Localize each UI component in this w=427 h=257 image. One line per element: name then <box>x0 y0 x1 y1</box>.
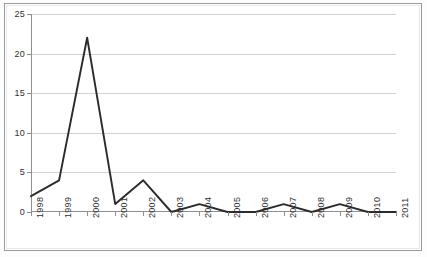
series-1-line <box>31 38 396 212</box>
y-axis-labels: 0510152025 <box>0 14 28 212</box>
x-tick-label: 2009 <box>344 197 354 218</box>
x-tick-label: 2005 <box>232 197 242 218</box>
y-tick-mark <box>27 54 31 55</box>
y-tick-mark <box>27 93 31 94</box>
x-tick-label: 2004 <box>203 197 213 218</box>
y-tick-label: 20 <box>1 49 25 59</box>
x-tick-label: 2007 <box>288 197 298 218</box>
series-line-svg <box>31 14 396 212</box>
y-tick-mark <box>27 172 31 173</box>
x-axis-labels: 1998199920002001200220032004200520062007… <box>31 216 396 256</box>
y-tick-label: 25 <box>1 9 25 19</box>
x-tick-label: 1998 <box>35 197 45 218</box>
x-tick-label: 2006 <box>260 197 270 218</box>
y-tick-mark <box>27 14 31 15</box>
x-tick-label: 2000 <box>91 197 101 218</box>
x-tick-label: 2010 <box>372 197 382 218</box>
x-tick-label: 2001 <box>119 197 129 218</box>
x-tick-label: 2008 <box>316 197 326 218</box>
x-tick-label: 1999 <box>63 197 73 218</box>
y-tick-label: 0 <box>1 207 25 217</box>
plot-area <box>31 14 396 212</box>
x-tick-label: 2002 <box>147 197 157 218</box>
y-tick-mark <box>27 212 31 213</box>
y-tick-label: 15 <box>1 88 25 98</box>
y-tick-mark <box>27 133 31 134</box>
x-tick-mark <box>396 212 397 216</box>
x-tick-label: 2003 <box>175 197 185 218</box>
chart-figure: 0510152025 19981999200020012002200320042… <box>0 0 427 257</box>
x-tick-label: 2011 <box>400 197 410 218</box>
y-tick-label: 10 <box>1 128 25 138</box>
y-tick-label: 5 <box>1 167 25 177</box>
